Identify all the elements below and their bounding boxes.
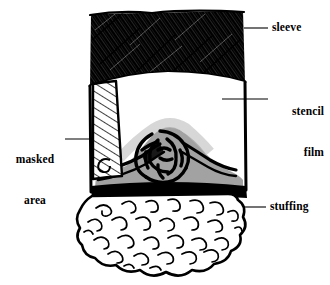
label-masked-area-line2: area bbox=[8, 194, 62, 208]
label-sleeve: sleeve bbox=[272, 21, 301, 35]
label-stuffing: stuffing bbox=[270, 200, 309, 214]
label-stencil-film-line1: stencil bbox=[272, 105, 324, 119]
stuffing-region bbox=[77, 194, 245, 276]
diagram-figure: sleeve stencil film masked area stuffing bbox=[0, 0, 330, 285]
label-masked-area: masked area bbox=[8, 126, 62, 234]
label-stencil-film: stencil film bbox=[272, 78, 324, 186]
label-masked-area-line1: masked bbox=[8, 153, 62, 167]
label-stencil-film-line2: film bbox=[272, 146, 324, 160]
